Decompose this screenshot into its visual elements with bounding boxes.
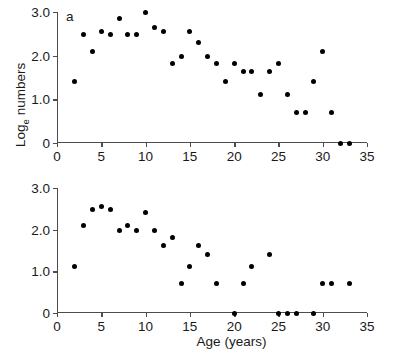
- data-point: [285, 92, 290, 97]
- data-point: [347, 141, 352, 146]
- y-tick-label-b-2: 2.0: [31, 222, 50, 237]
- data-point: [90, 207, 95, 212]
- data-point: [143, 210, 148, 215]
- data-point: [258, 92, 263, 97]
- x-tick-label-b-0: 0: [53, 319, 61, 334]
- data-point: [241, 69, 246, 74]
- data-point: [81, 223, 86, 228]
- data-point: [125, 223, 130, 228]
- data-point: [134, 228, 139, 233]
- data-point: [232, 311, 237, 316]
- x-tick-label-a-6: 30: [315, 149, 330, 164]
- x-tick-b-1: [101, 313, 102, 317]
- x-tick-a-4: [234, 143, 235, 147]
- data-point: [187, 264, 192, 269]
- data-point: [249, 264, 254, 269]
- data-point: [143, 10, 148, 15]
- data-point: [205, 252, 210, 257]
- data-point: [329, 281, 334, 286]
- data-point: [125, 32, 130, 37]
- panel-b: b 01.02.03.005101520253035: [0, 180, 413, 359]
- x-tick-b-0: [57, 313, 58, 317]
- data-point: [170, 235, 175, 240]
- x-tick-label-b-5: 25: [271, 319, 286, 334]
- data-point: [134, 32, 139, 37]
- data-point: [320, 281, 325, 286]
- x-tick-label-a-5: 25: [271, 149, 286, 164]
- y-tick-label-a-3: 3.0: [31, 5, 50, 20]
- x-tick-a-0: [57, 143, 58, 147]
- data-point: [232, 61, 237, 66]
- data-point: [117, 16, 122, 21]
- data-point: [303, 110, 308, 115]
- x-axis-line-a: [57, 142, 367, 143]
- data-point: [276, 61, 281, 66]
- data-point: [311, 311, 316, 316]
- data-point: [196, 40, 201, 45]
- y-tick-label-a-0: 0: [42, 136, 50, 151]
- data-point: [179, 281, 184, 286]
- y-tick-label-a-2: 2.0: [31, 48, 50, 63]
- x-tick-b-6: [323, 313, 324, 317]
- data-point: [108, 207, 113, 212]
- data-point: [241, 281, 246, 286]
- y-tick-label-b-1: 1.0: [31, 264, 50, 279]
- y-axis-line-b: [57, 188, 58, 313]
- data-point: [214, 61, 219, 66]
- data-point: [117, 228, 122, 233]
- data-point: [347, 281, 352, 286]
- panel-a: a 01.02.03.005101520253035: [0, 0, 413, 180]
- data-point: [161, 29, 166, 34]
- x-tick-a-5: [278, 143, 279, 147]
- plot-area-b: 01.02.03.005101520253035: [57, 188, 367, 313]
- data-point: [99, 29, 104, 34]
- x-tick-label-b-7: 35: [359, 319, 374, 334]
- data-point: [161, 243, 166, 248]
- x-tick-label-b-2: 10: [138, 319, 153, 334]
- y-tick-a-2: [53, 56, 57, 57]
- figure-scatter-plots: Loge numbers Age (years) a 01.02.03.0051…: [0, 0, 413, 359]
- x-tick-a-6: [323, 143, 324, 147]
- y-tick-a-1: [53, 99, 57, 100]
- data-point: [267, 252, 272, 257]
- x-tick-b-7: [367, 313, 368, 317]
- data-point: [205, 54, 210, 59]
- x-tick-a-1: [101, 143, 102, 147]
- x-tick-label-a-2: 10: [138, 149, 153, 164]
- data-point: [99, 204, 104, 209]
- data-point: [108, 32, 113, 37]
- data-point: [267, 69, 272, 74]
- data-point: [249, 69, 254, 74]
- data-point: [311, 79, 316, 84]
- x-tick-b-2: [146, 313, 147, 317]
- x-axis-line-b: [57, 312, 367, 313]
- data-point: [187, 29, 192, 34]
- data-point: [152, 228, 157, 233]
- data-point: [152, 25, 157, 30]
- x-tick-label-b-1: 5: [98, 319, 106, 334]
- y-tick-label-b-3: 3.0: [31, 181, 50, 196]
- y-tick-b-2: [53, 230, 57, 231]
- data-point: [72, 264, 77, 269]
- x-tick-label-a-0: 0: [53, 149, 61, 164]
- y-tick-label-a-1: 1.0: [31, 92, 50, 107]
- y-tick-a-3: [53, 12, 57, 13]
- y-tick-b-1: [53, 271, 57, 272]
- x-tick-a-3: [190, 143, 191, 147]
- x-tick-label-b-3: 15: [182, 319, 197, 334]
- data-point: [276, 311, 281, 316]
- data-point: [329, 110, 334, 115]
- y-tick-label-b-0: 0: [42, 306, 50, 321]
- x-tick-label-b-4: 20: [227, 319, 242, 334]
- x-tick-a-7: [367, 143, 368, 147]
- data-point: [338, 141, 343, 146]
- y-axis-line-a: [57, 12, 58, 143]
- x-tick-label-a-4: 20: [227, 149, 242, 164]
- data-point: [90, 49, 95, 54]
- data-point: [170, 61, 175, 66]
- x-tick-b-3: [190, 313, 191, 317]
- x-tick-label-a-3: 15: [182, 149, 197, 164]
- data-point: [72, 79, 77, 84]
- data-point: [285, 311, 290, 316]
- x-tick-label-a-7: 35: [359, 149, 374, 164]
